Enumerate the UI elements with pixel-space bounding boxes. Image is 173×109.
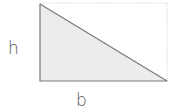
triangle-area-diagram: h b [0, 0, 173, 109]
height-label: h [8, 38, 19, 58]
base-label: b [76, 90, 87, 109]
right-triangle [40, 4, 167, 81]
